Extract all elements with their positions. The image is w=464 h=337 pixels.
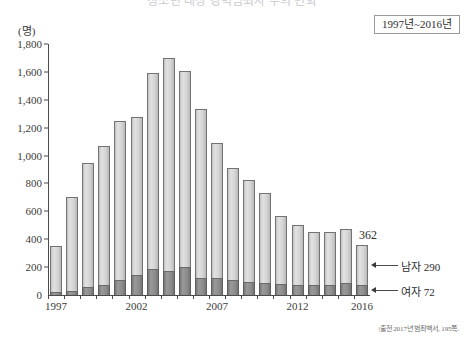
bar-segment-male bbox=[243, 180, 255, 282]
bar-segment-female bbox=[356, 285, 368, 295]
bar-segment-female bbox=[147, 269, 159, 295]
x-tick-label-2002: 2002 bbox=[126, 300, 148, 312]
bar-segment-male bbox=[50, 246, 62, 292]
x-tick-mark bbox=[306, 295, 307, 299]
x-tick-mark bbox=[129, 295, 130, 299]
x-tick-mark bbox=[145, 295, 146, 299]
x-tick-mark bbox=[257, 295, 258, 299]
bar-2010[interactable] bbox=[259, 193, 271, 295]
source-note: |출전 2017년 범죄백서, 195쪽. bbox=[378, 323, 459, 333]
y-tick-mark bbox=[44, 155, 48, 156]
bar-segment-female bbox=[179, 267, 191, 295]
bar-segment-female bbox=[66, 291, 78, 295]
y-tick-label: 1,800 bbox=[0, 38, 42, 50]
x-tick-mark bbox=[354, 295, 355, 299]
x-tick-mark bbox=[64, 295, 65, 299]
bar-2005[interactable] bbox=[179, 71, 191, 295]
bar-segment-male bbox=[259, 193, 271, 284]
bar-2009[interactable] bbox=[243, 180, 255, 295]
y-tick-mark bbox=[44, 211, 48, 212]
y-tick-mark bbox=[44, 44, 48, 45]
x-tick-mark bbox=[112, 295, 113, 299]
bar-segment-male bbox=[227, 168, 239, 280]
y-tick-mark bbox=[44, 239, 48, 240]
bar-segment-male bbox=[131, 117, 143, 276]
bar-segment-female bbox=[114, 280, 126, 295]
bar-2000[interactable] bbox=[98, 146, 110, 295]
y-tick-mark bbox=[44, 127, 48, 128]
bar-segment-male bbox=[163, 58, 175, 271]
x-tick-mark bbox=[177, 295, 178, 299]
x-tick-mark bbox=[338, 295, 339, 299]
y-tick-label: 1,200 bbox=[0, 122, 42, 134]
bar-segment-female bbox=[243, 282, 255, 295]
bar-2012[interactable] bbox=[292, 225, 304, 295]
y-tick-mark bbox=[44, 183, 48, 184]
value-label-2016: 362 bbox=[359, 228, 377, 243]
bar-segment-male bbox=[356, 245, 368, 285]
bar-segment-female bbox=[324, 285, 336, 295]
bar-2011[interactable] bbox=[275, 216, 287, 295]
y-tick-label: 600 bbox=[0, 205, 42, 217]
y-axis-line bbox=[48, 44, 49, 295]
x-tick-mark bbox=[161, 295, 162, 299]
y-tick-label: 400 bbox=[0, 233, 42, 245]
x-tick-label-2016: 2016 bbox=[351, 300, 373, 312]
bar-2001[interactable] bbox=[114, 121, 126, 295]
y-tick-mark bbox=[44, 99, 48, 100]
bar-segment-male bbox=[114, 121, 126, 280]
x-tick-mark bbox=[225, 295, 226, 299]
bar-segment-male bbox=[195, 109, 207, 278]
y-tick-label: 1,400 bbox=[0, 94, 42, 106]
x-tick-mark bbox=[290, 295, 291, 299]
x-tick-label-1997: 1997 bbox=[45, 300, 67, 312]
x-tick-mark bbox=[96, 295, 97, 299]
bar-2014[interactable] bbox=[324, 232, 336, 295]
female-callout-line bbox=[376, 290, 398, 291]
bar-segment-female bbox=[340, 283, 352, 295]
bar-2013[interactable] bbox=[308, 232, 320, 295]
bar-segment-female bbox=[163, 271, 175, 295]
bar-2007[interactable] bbox=[211, 143, 223, 295]
x-tick-label-2007: 2007 bbox=[206, 300, 228, 312]
bar-segment-male bbox=[292, 225, 304, 285]
bar-segment-female bbox=[259, 283, 271, 295]
bar-segment-male bbox=[179, 71, 191, 268]
y-tick-label: 1,000 bbox=[0, 150, 42, 162]
bar-segment-male bbox=[275, 216, 287, 284]
y-tick-label: 200 bbox=[0, 261, 42, 273]
bar-2015[interactable] bbox=[340, 229, 352, 295]
bar-2006[interactable] bbox=[195, 109, 207, 295]
x-tick-mark bbox=[48, 295, 49, 299]
y-tick-label: 1,600 bbox=[0, 66, 42, 78]
bar-segment-female bbox=[50, 292, 62, 295]
bar-2002[interactable] bbox=[131, 117, 143, 295]
bar-segment-female bbox=[275, 284, 287, 295]
x-tick-mark bbox=[273, 295, 274, 299]
female-callout-label: 여자 72 bbox=[401, 283, 435, 299]
male-callout-line bbox=[376, 265, 398, 266]
bar-chart-plot: 02004006008001,0001,2001,4001,6001,800 1… bbox=[0, 0, 464, 337]
bar-segment-male bbox=[98, 146, 110, 285]
x-tick-mark bbox=[80, 295, 81, 299]
bar-segment-female bbox=[195, 278, 207, 295]
bar-1999[interactable] bbox=[82, 163, 94, 295]
male-callout-label: 남자 290 bbox=[401, 258, 440, 274]
bar-segment-female bbox=[211, 278, 223, 295]
bar-segment-female bbox=[227, 280, 239, 295]
bar-segment-male bbox=[340, 229, 352, 283]
bar-segment-male bbox=[147, 73, 159, 268]
bar-1997[interactable] bbox=[50, 246, 62, 295]
x-tick-label-2012: 2012 bbox=[287, 300, 309, 312]
bar-segment-male bbox=[324, 232, 336, 285]
bar-2003[interactable] bbox=[147, 73, 159, 295]
bar-segment-female bbox=[308, 285, 320, 295]
male-callout-arrow bbox=[371, 262, 376, 268]
bar-2008[interactable] bbox=[227, 168, 239, 295]
bar-segment-female bbox=[82, 287, 94, 295]
bar-1998[interactable] bbox=[66, 197, 78, 295]
bar-segment-male bbox=[308, 232, 320, 284]
bar-2004[interactable] bbox=[163, 58, 175, 295]
x-tick-mark bbox=[322, 295, 323, 299]
bar-2016[interactable] bbox=[356, 245, 368, 295]
